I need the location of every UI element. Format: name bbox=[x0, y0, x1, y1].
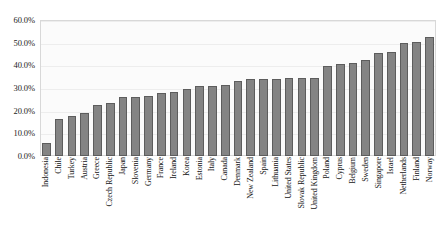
x-axis-tick-label: Korea bbox=[183, 157, 191, 176]
x-axis-tick-label: New Zealand bbox=[247, 157, 255, 199]
y-axis-tick-label: 10.0% bbox=[14, 128, 35, 138]
bar[interactable] bbox=[170, 92, 179, 156]
bar[interactable] bbox=[195, 86, 204, 156]
bar[interactable] bbox=[221, 85, 230, 156]
bar[interactable] bbox=[412, 42, 421, 156]
bar[interactable] bbox=[183, 89, 192, 156]
bar-slot bbox=[285, 20, 294, 156]
x-axis-label-slot: Israel bbox=[385, 157, 398, 251]
bar[interactable] bbox=[259, 79, 268, 156]
x-axis-label-slot: Austria bbox=[78, 157, 91, 251]
x-axis-label-slot: Indonesia bbox=[40, 157, 53, 251]
bar-slot bbox=[144, 20, 153, 156]
x-axis-label-slot: Poland bbox=[321, 157, 334, 251]
x-axis-label-slot: Slovenia bbox=[129, 157, 142, 251]
bar-slot bbox=[272, 20, 281, 156]
bar-slot bbox=[119, 20, 128, 156]
bar-slot bbox=[259, 20, 268, 156]
y-axis-tick-label: 60.0% bbox=[14, 15, 35, 25]
bar-slot bbox=[425, 20, 434, 156]
x-axis-tick-label: Czech Republic bbox=[106, 157, 114, 206]
x-axis-tick-label: Poland bbox=[323, 157, 331, 179]
x-axis-label-slot: Turkey bbox=[66, 157, 79, 251]
y-axis-tick-label: 40.0% bbox=[14, 60, 35, 70]
x-axis-tick-label: Turkey bbox=[68, 157, 76, 179]
y-axis-tick-label: 0.0% bbox=[18, 151, 35, 161]
bar[interactable] bbox=[157, 93, 166, 156]
bar[interactable] bbox=[246, 79, 255, 156]
bar-slot bbox=[170, 20, 179, 156]
bar[interactable] bbox=[234, 81, 243, 156]
bar[interactable] bbox=[285, 78, 294, 156]
bar-slot bbox=[310, 20, 319, 156]
bar-slot bbox=[361, 20, 370, 156]
bar[interactable] bbox=[131, 97, 140, 156]
x-axis-tick-label: Slovak Republic bbox=[298, 157, 306, 209]
bar[interactable] bbox=[387, 52, 396, 156]
bar-series bbox=[40, 20, 436, 156]
bar[interactable] bbox=[93, 105, 102, 156]
x-axis-label-slot: Estonia bbox=[193, 157, 206, 251]
bar-chart: 60.0%50.0%40.0%30.0%20.0%10.0%0.0% Indon… bbox=[0, 0, 442, 251]
bar[interactable] bbox=[42, 143, 51, 156]
x-axis-label-slot: Japan bbox=[117, 157, 130, 251]
x-axis-tick-label: Indonesia bbox=[42, 157, 50, 187]
bar[interactable] bbox=[298, 78, 307, 156]
bar[interactable] bbox=[336, 64, 345, 156]
bar[interactable] bbox=[349, 63, 358, 156]
bar[interactable] bbox=[80, 113, 89, 156]
x-axis-label-slot: Czech Republic bbox=[104, 157, 117, 251]
bar-slot bbox=[195, 20, 204, 156]
bar-slot bbox=[336, 20, 345, 156]
bar[interactable] bbox=[208, 86, 217, 156]
x-axis-label-slot: Norway bbox=[423, 157, 436, 251]
bar-slot bbox=[42, 20, 51, 156]
bar-slot bbox=[157, 20, 166, 156]
x-axis-tick-label: Norway bbox=[426, 157, 434, 182]
x-axis-label-slot: Sweden bbox=[359, 157, 372, 251]
bar-slot bbox=[106, 20, 115, 156]
bar-slot bbox=[400, 20, 409, 156]
x-axis-label-slot: Greece bbox=[91, 157, 104, 251]
bar-slot bbox=[298, 20, 307, 156]
x-axis-label-slot: Canada bbox=[219, 157, 232, 251]
x-axis-tick-label: Austria bbox=[81, 157, 89, 180]
bar-slot bbox=[80, 20, 89, 156]
x-axis: IndonesiaChileTurkeyAustriaGreeceCzech R… bbox=[40, 157, 436, 251]
bar[interactable] bbox=[55, 119, 64, 156]
bar[interactable] bbox=[323, 66, 332, 156]
bar[interactable] bbox=[106, 103, 115, 156]
bar-slot bbox=[349, 20, 358, 156]
x-axis-tick-label: Canada bbox=[221, 157, 229, 180]
x-axis-label-slot: Finland bbox=[410, 157, 423, 251]
x-axis-label-slot: Germany bbox=[142, 157, 155, 251]
x-axis-tick-label: Ireland bbox=[170, 157, 178, 179]
bar-slot bbox=[387, 20, 396, 156]
bar[interactable] bbox=[374, 53, 383, 156]
y-axis-tick-label: 30.0% bbox=[14, 83, 35, 93]
bar[interactable] bbox=[119, 97, 128, 156]
x-axis-tick-label: Estonia bbox=[196, 157, 204, 180]
x-axis-label-slot: New Zealand bbox=[244, 157, 257, 251]
bar[interactable] bbox=[400, 43, 409, 156]
bar-slot bbox=[93, 20, 102, 156]
x-axis-tick-label: Spain bbox=[260, 157, 268, 175]
x-axis-label-slot: Netherlands bbox=[398, 157, 411, 251]
bar[interactable] bbox=[144, 96, 153, 156]
x-axis-tick-label: Belgium bbox=[349, 157, 357, 184]
x-axis-label-slot: Lithuania bbox=[270, 157, 283, 251]
bar[interactable] bbox=[361, 60, 370, 156]
x-axis-label-slot: Italy bbox=[206, 157, 219, 251]
x-axis-tick-label: Italy bbox=[208, 157, 216, 171]
x-axis-tick-label: Finland bbox=[413, 157, 421, 181]
bar[interactable] bbox=[68, 116, 77, 156]
bar-slot bbox=[221, 20, 230, 156]
bar[interactable] bbox=[425, 37, 434, 156]
y-axis: 60.0%50.0%40.0%30.0%20.0%10.0%0.0% bbox=[0, 20, 38, 156]
bar[interactable] bbox=[310, 78, 319, 156]
x-axis-label-slot: Chile bbox=[53, 157, 66, 251]
bar[interactable] bbox=[272, 79, 281, 156]
x-axis-tick-label: United States bbox=[285, 157, 293, 199]
y-axis-tick-label: 20.0% bbox=[14, 106, 35, 116]
x-axis-tick-label: Lithuania bbox=[272, 157, 280, 187]
